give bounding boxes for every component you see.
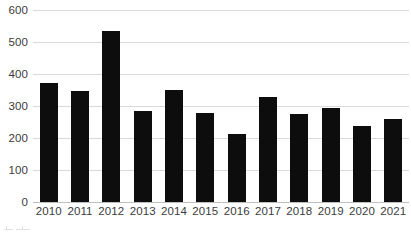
y-axis-tick-label: 600 [0,4,28,16]
bar-slot [315,10,346,202]
y-axis-tick-label: 500 [0,36,28,48]
x-axis-tick-label: 2010 [36,205,62,217]
bar [196,113,214,202]
bar [322,108,340,202]
scan-artifact-mark [16,229,30,230]
bar-slot [284,10,315,202]
bar [290,114,308,202]
axis-baseline [33,202,409,203]
bar-slot [33,10,64,202]
bars-group [33,10,409,202]
y-axis-tick-label: 0 [0,196,28,208]
x-axis-tick-label: 2017 [255,205,281,217]
bar-slot [96,10,127,202]
x-axis-tick-label: 2019 [318,205,344,217]
x-axis-tick-label: 2018 [286,205,312,217]
y-axis-tick-label: 300 [0,100,28,112]
bar-slot [190,10,221,202]
x-axis-tick-label: 2021 [380,205,406,217]
bar [384,119,402,202]
y-axis-tick-label: 400 [0,68,28,80]
bar-slot [378,10,409,202]
x-axis-tick-label: 2011 [67,205,92,217]
bar-slot [64,10,95,202]
x-axis-tick-label: 2013 [130,205,156,217]
bar [228,134,246,202]
bar-slot [158,10,189,202]
bar [353,126,371,202]
bar [259,97,277,202]
y-axis-tick-label: 100 [0,164,28,176]
x-axis-tick-label: 2014 [161,205,187,217]
scan-artifact-mark [6,226,7,230]
bar-slot [346,10,377,202]
bar [40,83,58,202]
scan-artifact [4,226,46,231]
bar-slot [221,10,252,202]
x-axis-tick-label: 2016 [224,205,250,217]
bar [71,91,89,202]
x-axis-tick-label: 2020 [349,205,375,217]
x-axis-tick-label: 2015 [192,205,218,217]
bar-slot [127,10,158,202]
plot-area [33,10,409,202]
bar-chart-figure: 0100200300400500600 20102011201220132014… [0,0,411,235]
bar-slot [252,10,283,202]
y-axis-tick-label: 200 [0,132,28,144]
bar [165,90,183,202]
x-axis-tick-label: 2012 [98,205,124,217]
bar [134,111,152,202]
x-axis-tick-labels: 2010201120122013201420152016201720182019… [33,205,409,223]
bar [102,31,120,202]
